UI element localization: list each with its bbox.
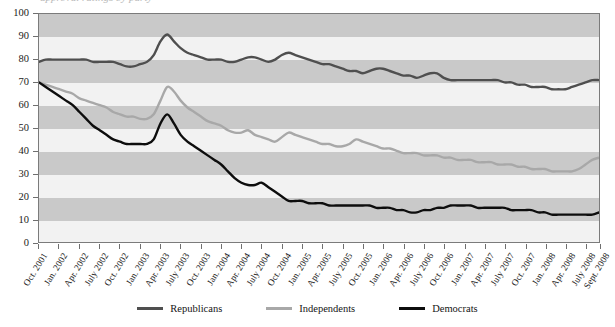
series-lines <box>39 14 599 242</box>
x-axis-tick <box>302 244 303 249</box>
x-axis-tick <box>221 244 222 249</box>
x-axis-tick <box>99 244 100 249</box>
x-axis-tick <box>566 244 567 249</box>
y-axis-label: 40 <box>19 146 30 157</box>
x-axis-tick <box>261 244 262 249</box>
x-axis-tick <box>505 244 506 249</box>
x-axis-tick <box>241 244 242 249</box>
x-axis-tick <box>600 244 601 249</box>
y-axis: 0102030405060708090100 <box>0 0 38 244</box>
chart-title-remnant: approval ratings by party <box>40 0 340 3</box>
y-axis-label: 80 <box>19 54 30 65</box>
legend-swatch-icon <box>399 307 425 310</box>
x-axis-tick <box>546 244 547 249</box>
legend-swatch-icon <box>137 307 163 310</box>
x-axis-tick <box>404 244 405 249</box>
x-axis-tick <box>485 244 486 249</box>
x-axis-tick <box>140 244 141 249</box>
x-axis-tick <box>586 244 587 249</box>
legend-item-democrats[interactable]: Democrats <box>399 303 477 314</box>
x-axis-tick <box>201 244 202 249</box>
line-series-independents <box>39 82 599 171</box>
x-axis-tick <box>282 244 283 249</box>
x-axis-tick <box>180 244 181 249</box>
legend-label: Democrats <box>432 303 477 314</box>
line-series-democrats <box>39 82 599 214</box>
x-axis-tick <box>38 244 39 249</box>
legend-label: Republicans <box>170 303 222 314</box>
legend-swatch-icon <box>266 307 292 310</box>
y-axis-label: 60 <box>19 100 30 111</box>
chart-container: approval ratings by party 01020304050607… <box>0 0 615 327</box>
x-axis-tick <box>444 244 445 249</box>
y-axis-label: 30 <box>19 169 30 180</box>
chart-legend: RepublicansIndependentsDemocrats <box>0 297 615 319</box>
y-axis-label: 0 <box>24 238 29 249</box>
legend-label: Independents <box>299 303 355 314</box>
line-series-republicans <box>39 35 599 90</box>
y-axis-label: 50 <box>19 123 30 134</box>
x-axis-tick <box>322 244 323 249</box>
y-axis-label: 70 <box>19 77 30 88</box>
y-axis-label: 100 <box>13 8 29 19</box>
x-axis-tick <box>363 244 364 249</box>
x-axis-tick <box>119 244 120 249</box>
x-axis-tick <box>424 244 425 249</box>
x-axis-tick <box>526 244 527 249</box>
x-axis-tick <box>160 244 161 249</box>
x-axis-tick <box>383 244 384 249</box>
legend-item-republicans[interactable]: Republicans <box>137 303 222 314</box>
y-axis-label: 90 <box>19 31 30 42</box>
x-axis-tick <box>343 244 344 249</box>
y-axis-label: 10 <box>19 215 30 226</box>
x-axis-tick <box>58 244 59 249</box>
y-axis-label: 20 <box>19 192 30 203</box>
x-axis-tick <box>79 244 80 249</box>
legend-item-independents[interactable]: Independents <box>266 303 355 314</box>
plot-area <box>38 13 600 243</box>
x-axis-tick <box>465 244 466 249</box>
